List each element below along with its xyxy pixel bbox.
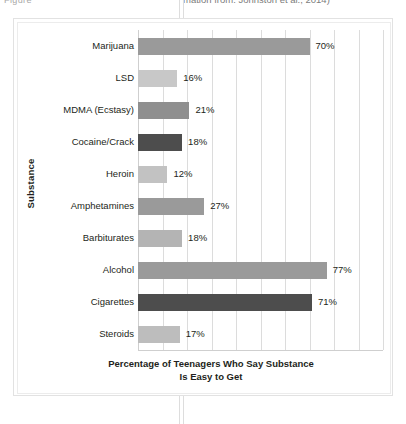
- bar-row: Amphetamines27%: [39, 190, 383, 222]
- bar-track: 27%: [138, 190, 383, 222]
- bar-track: 71%: [138, 286, 383, 318]
- bar: [138, 198, 204, 215]
- x-axis-title-line2: Is Easy to Get: [39, 371, 383, 384]
- bar-category-label: LSD: [39, 73, 138, 83]
- bar: [138, 166, 167, 183]
- bar-value-label: 21%: [195, 105, 214, 115]
- plot-area: Marijuana70%LSD16%MDMA (Ecstasy)21%Cocai…: [39, 30, 383, 350]
- bar: [138, 102, 189, 119]
- bar-track: 77%: [138, 254, 383, 286]
- bar-value-label: 27%: [210, 201, 229, 211]
- bar: [138, 70, 177, 87]
- y-axis-title-label: Substance: [26, 158, 37, 208]
- x-axis-title-line1: Percentage of Teenagers Who Say Substanc…: [108, 358, 314, 369]
- x-axis-line: [138, 350, 383, 351]
- bar-row: LSD16%: [39, 62, 383, 94]
- bar-row: Heroin12%: [39, 158, 383, 190]
- bar: [138, 230, 182, 247]
- bar: [138, 294, 312, 311]
- bar-category-label: Heroin: [39, 169, 138, 179]
- bar: [138, 262, 327, 279]
- bar-track: 70%: [138, 30, 383, 62]
- bar-value-label: 18%: [188, 233, 207, 243]
- bar-value-label: 16%: [183, 73, 202, 83]
- caption-fragment-left: Figure: [4, 0, 32, 5]
- bar-value-label: 17%: [186, 329, 205, 339]
- bar-category-label: Cigarettes: [39, 297, 138, 307]
- bar-category-label: Amphetamines: [39, 201, 138, 211]
- bar-track: 18%: [138, 126, 383, 158]
- bar-row: Barbiturates18%: [39, 222, 383, 254]
- bar-category-label: Marijuana: [39, 41, 138, 51]
- bar-value-label: 70%: [316, 41, 335, 51]
- bar-track: 21%: [138, 94, 383, 126]
- bar-chart: Substance Marijuana70%LSD16%MDMA (Ecstas…: [13, 18, 393, 396]
- bar: [138, 134, 182, 151]
- bar: [138, 38, 310, 55]
- bar-track: 18%: [138, 222, 383, 254]
- bar-value-label: 12%: [173, 169, 192, 179]
- bar-category-label: Steroids: [39, 329, 138, 339]
- bar-track: 16%: [138, 62, 383, 94]
- bar-value-label: 18%: [188, 137, 207, 147]
- x-axis-title: Percentage of Teenagers Who Say Substanc…: [39, 358, 383, 384]
- bar-row: MDMA (Ecstasy)21%: [39, 94, 383, 126]
- bar-row: Cocaine/Crack18%: [39, 126, 383, 158]
- gridline: [383, 30, 384, 350]
- bar-category-label: Alcohol: [39, 265, 138, 275]
- caption-fragment-right: mation from: Johnston et al., 2014): [183, 0, 330, 5]
- bar-value-label: 71%: [318, 297, 337, 307]
- bar-row: Cigarettes71%: [39, 286, 383, 318]
- bar: [138, 326, 180, 343]
- bar-row: Alcohol77%: [39, 254, 383, 286]
- bar-category-label: Cocaine/Crack: [39, 137, 138, 147]
- bar-track: 12%: [138, 158, 383, 190]
- bar-row: Marijuana70%: [39, 30, 383, 62]
- page-top-text-fragment: Figure mation from: Johnston et al., 201…: [0, 0, 406, 14]
- bar-category-label: MDMA (Ecstasy): [39, 105, 138, 115]
- bar-track: 17%: [138, 318, 383, 350]
- y-axis-title: Substance: [23, 18, 39, 348]
- bar-category-label: Barbiturates: [39, 233, 138, 243]
- bar-row: Steroids17%: [39, 318, 383, 350]
- bar-value-label: 77%: [333, 265, 352, 275]
